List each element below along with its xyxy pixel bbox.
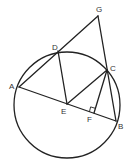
label-F: F	[87, 115, 92, 124]
label-G: G	[96, 5, 102, 14]
segment-CF	[94, 70, 107, 113]
label-D: D	[52, 43, 58, 52]
label-C: C	[110, 64, 116, 73]
geometry-diagram: A B C D E F G	[0, 0, 128, 162]
label-A: A	[9, 82, 15, 91]
label-B: B	[118, 122, 123, 131]
label-E: E	[61, 107, 66, 116]
segment-EC	[67, 70, 107, 104]
circle	[14, 52, 120, 158]
segment-DE	[58, 51, 67, 104]
